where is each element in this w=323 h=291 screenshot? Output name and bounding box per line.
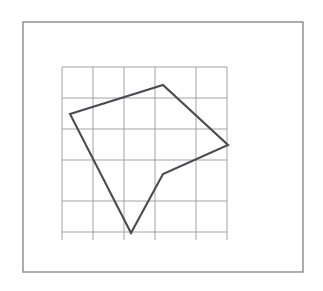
- figure-background: [0, 0, 323, 291]
- geometry-diagram: [0, 0, 323, 291]
- figure-root: [0, 0, 323, 291]
